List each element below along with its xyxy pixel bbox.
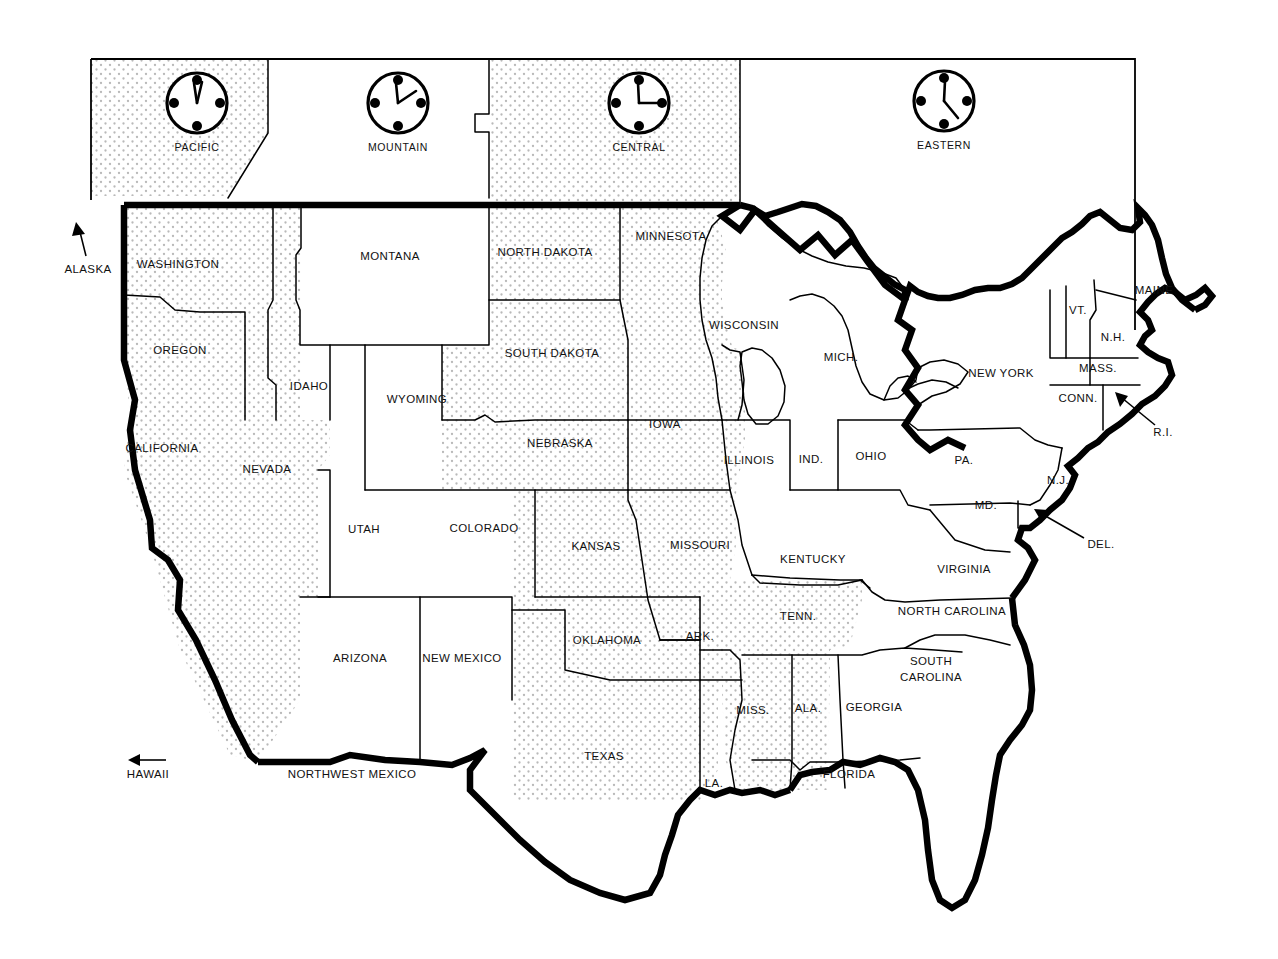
callout-label-hawaii: HAWAII xyxy=(127,768,169,780)
state-label-ind-17: IND. xyxy=(799,453,824,465)
state-label-virginia-31: VIRGINIA xyxy=(937,563,991,575)
shade-central-texas-panhandle xyxy=(512,600,700,800)
state-label-texas-43: TEXAS xyxy=(584,750,624,762)
callout-label-del: DEL. xyxy=(1087,538,1114,550)
hawaii-arrow-icon xyxy=(128,754,166,766)
state-label-colorado-13: COLORADO xyxy=(449,522,518,534)
state-label-florida-45: FLORIDA xyxy=(823,768,876,780)
callout-label-northwest-mexico: NORTHWEST MEXICO xyxy=(288,768,417,780)
state-label-illinois-16: ILLINOIS xyxy=(724,454,775,466)
boundary-mt-nd xyxy=(442,205,489,345)
state-label-georgia-42: GEORGIA xyxy=(846,701,902,713)
boundary-va-north xyxy=(930,510,1010,552)
state-label-mass-24: MASS. xyxy=(1079,362,1117,374)
state-label-iowa-15: IOWA xyxy=(649,418,681,430)
state-label-la-44: LA. xyxy=(705,777,723,789)
callout-label-r-i: R.I. xyxy=(1153,426,1173,438)
state-label-new-mexico-36: NEW MEXICO xyxy=(422,652,501,664)
state-label-n-j-26: N.J. xyxy=(1047,474,1069,486)
state-label-mich-9: MICH. xyxy=(824,351,859,363)
state-label-wisconsin-8: WISCONSIN xyxy=(709,319,779,331)
boundary-vt-nh-2 xyxy=(1090,280,1096,358)
state-label-carolina-39: CAROLINA xyxy=(900,671,962,683)
boundary-va-nc xyxy=(862,580,1012,602)
state-label-south-dakota-6: SOUTH DAKOTA xyxy=(505,347,600,359)
boundary-nc-sc xyxy=(905,635,1010,648)
zone-label-pacific: PACIFIC xyxy=(175,141,220,153)
state-label-pa-19: PA. xyxy=(955,454,974,466)
state-label-miss-40: MISS. xyxy=(736,704,769,716)
shaded-zone-regions xyxy=(91,59,862,800)
boundary-wy-co-ne-ks xyxy=(365,490,535,597)
legend-shade-central xyxy=(489,59,740,205)
state-label-vt-22: VT. xyxy=(1069,304,1087,316)
state-label-md-27: MD. xyxy=(975,499,997,511)
boundary-ny-ma xyxy=(1050,290,1138,358)
state-label-ala-41: ALA. xyxy=(795,702,822,714)
state-label-utah-12: UTAH xyxy=(348,523,380,535)
outline-great-lakes-north xyxy=(740,204,905,300)
state-label-tenn-33: TENN. xyxy=(780,610,817,622)
state-label-nevada-11: NEVADA xyxy=(243,463,292,475)
state-label-california-10: CALIFORNIA xyxy=(125,442,198,454)
clock-eastern xyxy=(914,71,974,131)
state-label-kentucky-30: KENTUCKY xyxy=(780,553,846,565)
callout-label-alaska: ALASKA xyxy=(64,263,111,275)
boundary-id-wy-ut xyxy=(330,345,365,490)
state-label-south-38: SOUTH xyxy=(910,655,952,667)
boundary-az-nm xyxy=(330,597,420,760)
shade-central-nebraska-kansas xyxy=(442,420,535,490)
state-label-conn-25: CONN. xyxy=(1058,392,1097,404)
boundary-oh-ky-wv xyxy=(838,490,930,510)
clock-pacific xyxy=(167,73,227,133)
zone-label-mountain: MOUNTAIN xyxy=(368,141,428,153)
clock-central xyxy=(609,73,669,133)
state-label-north-dakota-5: NORTH DAKOTA xyxy=(497,246,592,258)
state-label-idaho-2: IDAHO xyxy=(290,380,328,392)
state-label-oregon-1: OREGON xyxy=(153,344,207,356)
state-label-oklahoma-35: OKLAHOMA xyxy=(573,634,641,646)
state-label-north-carolina-32: NORTH CAROLINA xyxy=(898,605,1006,617)
boundary-mt-wy xyxy=(365,345,442,420)
state-label-minnesota-7: MINNESOTA xyxy=(635,230,706,242)
shade-pacific-idaho-strip xyxy=(273,205,301,380)
legend-divider-mountain-central xyxy=(475,59,489,198)
state-label-maine-21: MAINE xyxy=(1135,284,1173,296)
alaska-arrow-icon xyxy=(72,222,86,256)
boundary-nh-me xyxy=(1096,290,1136,300)
state-label-arizona-37: ARIZONA xyxy=(333,652,387,664)
time-zone-map: PACIFICMOUNTAINCENTRALEASTERN WASHINGTON… xyxy=(0,0,1278,959)
us-time-zone-map-svg: PACIFICMOUNTAINCENTRALEASTERN WASHINGTON… xyxy=(0,0,1278,959)
state-label-n-h-23: N.H. xyxy=(1101,331,1126,343)
state-label-ark-34: ARK. xyxy=(686,630,714,642)
lake-michigan-outline xyxy=(740,348,785,424)
state-label-missouri-29: MISSOURI xyxy=(670,539,730,551)
clock-mountain xyxy=(368,73,428,133)
del-leader-arrow-icon xyxy=(1034,509,1084,538)
boundary-nv-ut xyxy=(318,470,330,597)
state-label-montana-3: MONTANA xyxy=(360,250,419,262)
zone-label-central: CENTRAL xyxy=(612,141,665,153)
boundary-nm-co-ok xyxy=(420,597,512,700)
state-label-ohio-18: OHIO xyxy=(856,450,887,462)
state-label-wyoming-4: WYOMING xyxy=(387,393,447,405)
state-label-washington-0: WASHINGTON xyxy=(137,258,220,270)
state-label-new-york-20: NEW YORK xyxy=(968,367,1034,379)
zone-label-eastern: EASTERN xyxy=(917,139,971,151)
boundary-il-ky xyxy=(752,575,862,580)
state-label-nebraska-14: NEBRASKA xyxy=(527,437,593,449)
state-label-kansas-28: KANSAS xyxy=(571,540,620,552)
